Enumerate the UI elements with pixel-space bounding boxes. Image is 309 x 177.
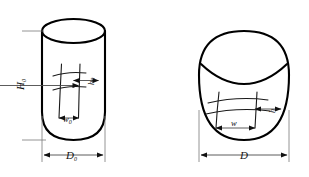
figure-background	[0, 0, 309, 177]
label-D: D	[239, 149, 248, 161]
label-w: w	[231, 118, 237, 128]
label-h: h	[267, 109, 277, 113]
technical-figure: h0 w0 H0 D0	[0, 0, 309, 177]
engineering-diagram-canvas: h0 w0 H0 D0	[0, 0, 309, 177]
